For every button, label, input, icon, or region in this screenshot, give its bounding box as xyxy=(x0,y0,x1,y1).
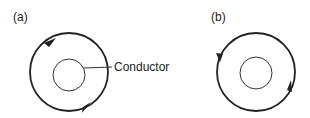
panel-a xyxy=(30,33,112,113)
conductor-circle-a xyxy=(53,59,85,91)
arrow-icon-a-bottom xyxy=(82,102,91,113)
field-line-circle-a xyxy=(30,33,108,111)
panel-label-b: (b) xyxy=(211,10,226,24)
arrow-icon-a-top xyxy=(44,38,56,47)
diagram-canvas xyxy=(0,0,310,118)
arrow-icon-b-left xyxy=(216,53,223,62)
arrow-icon-b-right xyxy=(287,80,292,92)
panel-label-a: (a) xyxy=(13,10,28,24)
field-line-circle-b xyxy=(217,33,295,111)
conductor-label: Conductor xyxy=(114,60,169,74)
conductor-circle-b xyxy=(240,57,272,89)
panel-b xyxy=(216,33,295,111)
